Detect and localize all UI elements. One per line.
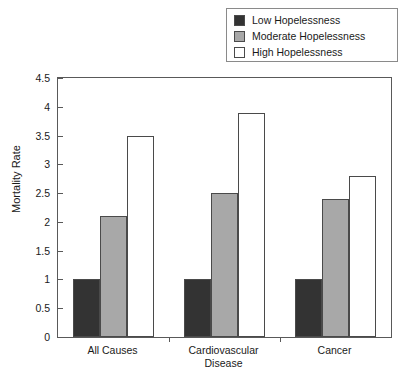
y-axis-tick-mark xyxy=(58,164,63,165)
y-axis-tick-mark xyxy=(58,308,63,309)
y-axis-tick-mark xyxy=(58,78,63,79)
y-axis-tick-label: 0 xyxy=(44,332,50,342)
y-axis-tick-label: 4.5 xyxy=(35,73,50,83)
y-axis-tick-mark xyxy=(58,193,63,194)
legend-swatch-icon-low xyxy=(234,15,245,26)
y-axis-tick-label: 1 xyxy=(44,274,50,284)
legend-swatch-icon-high xyxy=(234,47,245,58)
y-axis-tick-mark xyxy=(58,136,63,137)
y-axis-tick-label: 0.5 xyxy=(35,303,50,313)
bar-cardiovascular-disease-low-hopelessness xyxy=(184,279,211,337)
y-axis-tick-mark xyxy=(58,251,63,252)
chart-legend: Low Hopelessness Moderate Hopelessness H… xyxy=(226,8,398,62)
bar-cancer-moderate-hopelessness xyxy=(322,199,349,337)
bar-cardiovascular-disease-high-hopelessness xyxy=(238,113,265,337)
x-axis-tick-mark xyxy=(280,337,281,342)
y-axis-tick-label: 3 xyxy=(44,159,50,169)
legend-item-high-hopelessness: High Hopelessness xyxy=(234,45,397,60)
legend-label-high: High Hopelessness xyxy=(252,47,342,58)
y-axis-tick-labels: 00.511.522.533.544.5 xyxy=(22,77,50,338)
x-axis-tick-labels: All CausesCardiovascularDiseaseCancer xyxy=(57,344,392,378)
legend-item-low-hopelessness: Low Hopelessness xyxy=(234,13,397,28)
y-axis-tick-mark xyxy=(58,279,63,280)
x-axis-category-label: Cancer xyxy=(279,344,390,357)
y-axis-tick-label: 3.5 xyxy=(35,131,50,141)
plot-area xyxy=(57,77,392,338)
bar-all-causes-moderate-hopelessness xyxy=(100,216,127,337)
bar-cancer-high-hopelessness xyxy=(349,176,376,337)
x-axis-category-label: All Causes xyxy=(57,344,168,357)
x-axis-tick-mark xyxy=(169,337,170,342)
bar-cancer-low-hopelessness xyxy=(295,279,322,337)
legend-item-moderate-hopelessness: Moderate Hopelessness xyxy=(234,29,397,44)
y-axis-title: Mortality Rate xyxy=(10,119,22,239)
legend-swatch-icon-moderate xyxy=(234,31,245,42)
legend-label-low: Low Hopelessness xyxy=(252,15,340,26)
bar-all-causes-low-hopelessness xyxy=(73,279,100,337)
plot-inner xyxy=(58,78,391,337)
x-axis-category-label: CardiovascularDisease xyxy=(168,344,279,369)
y-axis-tick-mark xyxy=(58,222,63,223)
y-axis-tick-label: 4 xyxy=(44,102,50,112)
y-axis-tick-label: 1.5 xyxy=(35,246,50,256)
y-axis-tick-mark xyxy=(58,107,63,108)
y-axis-tick-label: 2.5 xyxy=(35,188,50,198)
legend-label-moderate: Moderate Hopelessness xyxy=(252,31,365,42)
bar-all-causes-high-hopelessness xyxy=(127,136,154,337)
bar-cardiovascular-disease-moderate-hopelessness xyxy=(211,193,238,337)
y-axis-tick-label: 2 xyxy=(44,217,50,227)
y-axis-tick-mark xyxy=(58,337,63,338)
